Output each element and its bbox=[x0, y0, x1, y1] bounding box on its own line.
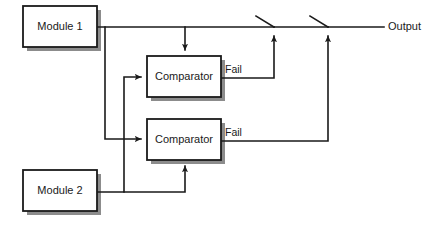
block-boxes: Module 1 Comparator Comparator Module 2 bbox=[23, 6, 221, 211]
wire-module2-to-comparator2 bbox=[124, 166, 185, 192]
wire-module2-to-comparator1 bbox=[97, 77, 141, 192]
block-diagram-canvas: Module 1 Comparator Comparator Module 2 … bbox=[0, 0, 435, 230]
block-diagram-svg: Module 1 Comparator Comparator Module 2 … bbox=[0, 0, 435, 230]
module1-block[interactable]: Module 1 bbox=[23, 6, 97, 47]
module2-block[interactable]: Module 2 bbox=[23, 170, 97, 211]
switch1-blade[interactable] bbox=[256, 16, 274, 27]
output-label: Output bbox=[388, 20, 421, 32]
module2-label: Module 2 bbox=[37, 184, 82, 196]
wire-text-labels: Fail Fail Output bbox=[225, 20, 421, 138]
fail1-label: Fail bbox=[225, 63, 242, 75]
switch2-blade[interactable] bbox=[310, 16, 328, 27]
signal-wires bbox=[97, 16, 384, 192]
module1-label: Module 1 bbox=[37, 20, 82, 32]
fail2-label: Fail bbox=[225, 126, 242, 138]
wire-module1-to-comparator2 bbox=[105, 27, 141, 139]
comparator2-block[interactable]: Comparator bbox=[147, 119, 221, 160]
comparator2-label: Comparator bbox=[155, 133, 213, 145]
comparator1-label: Comparator bbox=[155, 70, 213, 82]
comparator1-block[interactable]: Comparator bbox=[147, 56, 221, 97]
